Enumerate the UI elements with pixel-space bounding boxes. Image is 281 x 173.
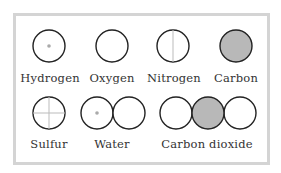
oxygen-atom-icon bbox=[96, 30, 128, 62]
hydrogen-atom-icon bbox=[33, 30, 65, 62]
carbon-label: Carbon bbox=[214, 71, 258, 85]
carbon-dioxide-label: Carbon dioxide bbox=[161, 137, 253, 151]
oxygen-label: Oxygen bbox=[89, 71, 134, 85]
nitrogen-atom-icon bbox=[157, 30, 189, 62]
hydrogen-label: Hydrogen bbox=[20, 71, 79, 85]
sulfur-label: Sulfur bbox=[30, 137, 67, 151]
carbon-atom-icon bbox=[220, 30, 252, 62]
carbon-dioxide-molecule-icon bbox=[160, 97, 256, 129]
water-molecule-icon bbox=[81, 97, 145, 129]
sulfur-atom-icon bbox=[33, 97, 65, 129]
water-label: Water bbox=[94, 137, 130, 151]
nitrogen-label: Nitrogen bbox=[147, 71, 201, 85]
